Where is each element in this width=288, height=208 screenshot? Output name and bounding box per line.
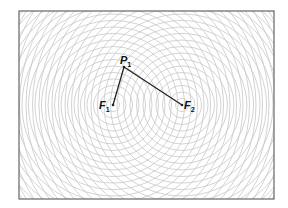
point-p1	[123, 66, 126, 69]
ring	[0, 0, 256, 208]
concentric-rings	[0, 0, 288, 208]
point-f1	[112, 104, 115, 107]
point-f2	[181, 104, 184, 107]
interference-diagram: F1F2P1	[0, 0, 288, 208]
diagram-frame	[19, 11, 274, 199]
label-f2: F2	[184, 99, 195, 113]
segment-p1-f2	[124, 67, 182, 105]
